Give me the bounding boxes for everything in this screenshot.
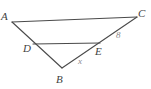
vertex-label-b: B (56, 74, 63, 85)
vertex-label-d: D (23, 43, 31, 54)
vertex-label-a: A (1, 11, 8, 22)
segment-AC (12, 17, 137, 22)
measure-label-be: x (78, 57, 82, 66)
geometry-figure: A C D E B x 8 (0, 0, 151, 89)
measure-label-ec: 8 (116, 31, 121, 40)
vertex-label-c: C (138, 8, 145, 19)
segment-AB (12, 22, 62, 68)
segment-DE (33, 43, 100, 44)
vertex-label-e: E (95, 46, 102, 57)
